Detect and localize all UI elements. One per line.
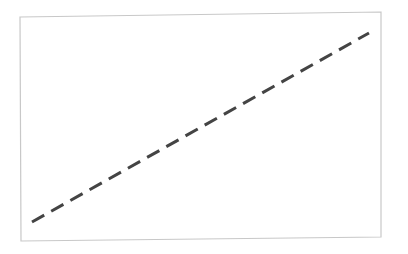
plot-frame: [20, 12, 381, 241]
series-layer: [32, 33, 369, 222]
line-chart: [0, 0, 408, 254]
series-line-0: [32, 33, 369, 222]
chart-canvas: [0, 0, 408, 254]
